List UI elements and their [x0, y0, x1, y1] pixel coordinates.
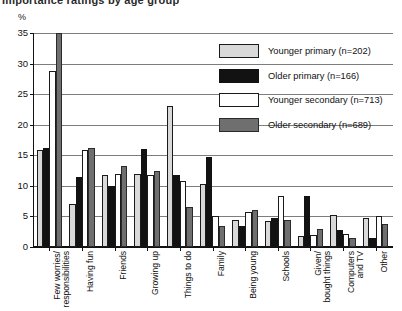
bar-group — [69, 33, 95, 247]
bar[interactable] — [284, 220, 290, 248]
legend-label: Younger secondary (n=713) — [268, 95, 383, 105]
x-axis-label: Few worries/ responsibilities — [53, 251, 72, 307]
bar[interactable] — [121, 166, 127, 247]
bar-group — [37, 33, 63, 247]
bar[interactable] — [154, 171, 160, 247]
legend-label: Older primary (n=166) — [268, 71, 359, 81]
bar-chart: Importance ratings by age group % 051015… — [0, 0, 402, 311]
legend-label: Younger primary (n=202) — [268, 46, 371, 56]
y-axis-tick-label: 25 — [2, 88, 28, 99]
x-axis-labels: Few worries/ responsibilitiesHaving funF… — [33, 251, 392, 311]
x-axis-label: Other — [380, 251, 389, 273]
bar-group — [102, 33, 128, 247]
legend-item-older-primary[interactable]: Older primary (n=166) — [219, 66, 394, 86]
legend-swatch-icon — [219, 69, 259, 83]
x-axis-label: Given/ bought things — [314, 251, 333, 303]
legend-swatch-icon — [219, 93, 259, 107]
legend-swatch-icon — [219, 118, 259, 132]
legend-label: Older secondary (n=689) — [268, 120, 371, 130]
bar[interactable] — [382, 224, 388, 247]
x-axis-label: Friends — [119, 251, 128, 280]
y-axis-tick-label: 35 — [2, 27, 28, 38]
y-axis-tick-label: 30 — [2, 58, 28, 69]
x-axis-label: Schools — [282, 251, 291, 282]
legend-item-younger-secondary[interactable]: Younger secondary (n=713) — [219, 90, 394, 110]
bar-group — [167, 33, 193, 247]
y-axis-tick-label: 10 — [2, 180, 28, 191]
chart-title-text: Importance ratings by age group — [2, 0, 179, 6]
bar[interactable] — [219, 226, 225, 247]
chart-title-clipped: Importance ratings by age group — [0, 0, 402, 10]
legend-swatch-icon — [219, 44, 259, 58]
y-axis-tick-label: 0 — [2, 241, 28, 252]
bar-group — [134, 33, 160, 247]
legend-item-older-secondary[interactable]: Older secondary (n=689) — [219, 115, 394, 135]
y-axis-tick-label: 20 — [2, 119, 28, 130]
bar[interactable] — [56, 33, 62, 247]
x-axis-label: Being young — [249, 251, 258, 299]
x-axis-label: Computers and TV — [347, 251, 366, 293]
y-axis-tick-label: 15 — [2, 149, 28, 160]
y-axis-unit-label: % — [18, 12, 26, 22]
x-axis-label: Things to do — [184, 251, 193, 298]
bar[interactable] — [88, 148, 94, 247]
x-axis-label: Family — [217, 251, 226, 276]
y-axis-tick-label: 5 — [2, 210, 28, 221]
legend: Younger primary (n=202) Older primary (n… — [219, 41, 394, 139]
x-axis-label: Growing up — [151, 251, 160, 295]
bar[interactable] — [186, 207, 192, 247]
bar[interactable] — [349, 238, 355, 247]
bar[interactable] — [317, 229, 323, 247]
x-axis-label: Having fun — [86, 251, 95, 292]
legend-item-younger-primary[interactable]: Younger primary (n=202) — [219, 41, 394, 61]
bar[interactable] — [252, 210, 258, 247]
